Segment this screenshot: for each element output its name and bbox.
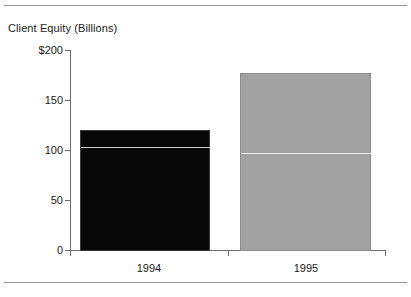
x-tick-mark-right (385, 251, 386, 256)
plot-area: $200 150 100 50 0 1994 1995 (0, 0, 411, 297)
y-axis-line (70, 50, 71, 251)
y-tick-mark-200 (65, 50, 70, 51)
y-tick-label-150: 150 (3, 95, 63, 106)
y-tick-mark-100 (65, 150, 70, 151)
bar-1995[interactable] (240, 73, 371, 251)
y-tick-label-100: 100 (3, 145, 63, 156)
bar-1994[interactable] (80, 130, 210, 251)
y-tick-label-200: $200 (3, 45, 63, 56)
x-tick-mark-left (70, 251, 71, 256)
chart-figure: Client Equity (Billions) $200 150 100 50… (0, 0, 411, 297)
y-tick-label-50: 50 (3, 195, 63, 206)
scan-artifact-line (241, 153, 372, 154)
y-tick-mark-50 (65, 200, 70, 201)
scan-artifact-line (81, 147, 211, 148)
y-tick-mark-150 (65, 100, 70, 101)
x-tick-label-1995: 1995 (266, 262, 346, 274)
x-tick-label-1994: 1994 (109, 262, 189, 274)
x-tick-mark-middle (228, 251, 229, 256)
y-tick-label-0: 0 (3, 245, 63, 256)
